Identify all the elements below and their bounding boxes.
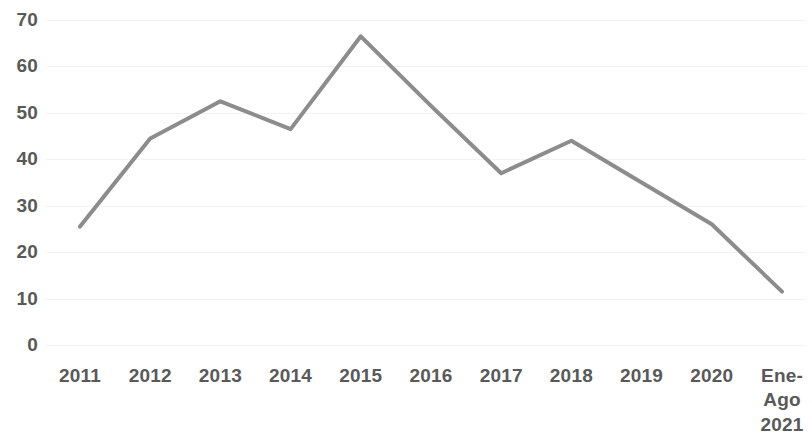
y-axis-tick-label: 70 — [16, 9, 38, 31]
x-axis-tick-label: 2011 — [59, 364, 101, 388]
x-axis-tick-label: 2016 — [409, 364, 452, 388]
plot-area — [46, 0, 806, 360]
y-axis-tick-label: 50 — [16, 102, 38, 124]
y-axis: 010203040506070 — [0, 0, 44, 360]
y-axis-tick-label: 0 — [27, 334, 38, 356]
x-axis-tick-label: 2017 — [480, 364, 523, 388]
series-line — [46, 0, 806, 360]
x-axis-tick-label: 2013 — [199, 364, 242, 388]
x-axis-tick-label: 2019 — [620, 364, 663, 388]
x-axis-tick-label: 2012 — [129, 364, 172, 388]
x-axis-tick-label: 2014 — [269, 364, 312, 388]
x-axis: 2011201220132014201520162017201820192020… — [46, 360, 806, 430]
y-axis-tick-label: 10 — [16, 288, 38, 310]
y-axis-tick-label: 20 — [16, 241, 38, 263]
y-axis-tick-label: 60 — [16, 55, 38, 77]
data-series-polyline — [80, 36, 782, 291]
x-axis-tick-label: 2018 — [550, 364, 593, 388]
y-axis-tick-label: 40 — [16, 148, 38, 170]
x-axis-tick-label: 2015 — [339, 364, 382, 388]
y-axis-tick-label: 30 — [16, 195, 38, 217]
x-axis-tick-label: Ene- Ago 2021 — [760, 364, 803, 435]
x-axis-tick-label: 2020 — [690, 364, 733, 388]
